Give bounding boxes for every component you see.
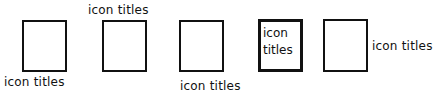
icon-box-4[interactable]: icon titles (258, 19, 303, 72)
icon-title-inside-line2: titles (263, 43, 293, 57)
icon-box-3[interactable] (179, 20, 224, 72)
icon-title-right: icon titles (372, 39, 433, 53)
icon-title-inside: icon titles (263, 25, 303, 59)
icon-title-inside-line1: icon (263, 26, 288, 40)
icon-title-below-offset: icon titles (180, 79, 241, 93)
icon-box-5[interactable] (323, 19, 368, 72)
icon-box-2[interactable] (102, 20, 147, 72)
icon-box-1[interactable] (22, 20, 67, 72)
icon-title-above: icon titles (88, 3, 149, 17)
icon-title-below: icon titles (4, 75, 65, 89)
